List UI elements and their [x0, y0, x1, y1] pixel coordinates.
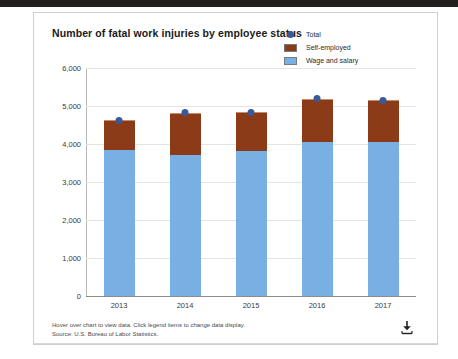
bar-segment-self-employed[interactable]: [236, 112, 267, 151]
bar-group[interactable]: [104, 68, 135, 296]
y-tick-label: 1,000: [62, 254, 81, 263]
bar-group[interactable]: [236, 68, 267, 296]
bar-segment-wage-and-salary[interactable]: [170, 154, 201, 296]
total-marker-dot[interactable]: [116, 117, 123, 124]
window-chrome-bar: [0, 0, 458, 7]
bar-segment-wage-and-salary[interactable]: [302, 141, 333, 296]
total-marker-dot[interactable]: [314, 95, 321, 102]
plot-inner[interactable]: [86, 68, 416, 296]
footer-hint: Hover over chart to view data. Click leg…: [52, 321, 382, 330]
x-tick-label: 2015: [243, 301, 260, 310]
y-tick-label: 0: [77, 292, 81, 301]
footer-source: Source: U.S. Bureau of Labor Statistics.: [52, 330, 382, 339]
download-icon[interactable]: [399, 319, 415, 337]
bar-segment-wage-and-salary[interactable]: [368, 141, 399, 296]
plot-area[interactable]: 01,0002,0003,0004,0005,0006,000 20132014…: [34, 13, 439, 346]
app-window: Number of fatal work injuries by employe…: [0, 0, 458, 359]
x-tick-label: 2013: [111, 301, 128, 310]
y-axis-labels: 01,0002,0003,0004,0005,0006,000: [34, 68, 81, 296]
chart-card: Number of fatal work injuries by employe…: [33, 12, 438, 345]
bar-group[interactable]: [302, 68, 333, 296]
x-tick-label: 2014: [177, 301, 194, 310]
bar-segment-self-employed[interactable]: [170, 113, 201, 155]
bar-group[interactable]: [170, 68, 201, 296]
bar-segment-self-employed[interactable]: [368, 100, 399, 141]
x-axis-labels: 20132014201520162017: [86, 301, 416, 315]
y-tick-label: 4,000: [62, 140, 81, 149]
footer-notes: Hover over chart to view data. Click leg…: [52, 321, 382, 339]
bar-segment-wage-and-salary[interactable]: [104, 149, 135, 296]
total-marker-dot[interactable]: [248, 109, 255, 116]
bar-segment-wage-and-salary[interactable]: [236, 150, 267, 296]
total-marker-dot[interactable]: [380, 97, 387, 104]
window-left-margin: [0, 7, 9, 359]
x-tick-label: 2016: [309, 301, 326, 310]
bar-segment-self-employed[interactable]: [302, 99, 333, 142]
x-tick-label: 2017: [375, 301, 392, 310]
y-tick-label: 2,000: [62, 216, 81, 225]
card-bottom-rule: [34, 343, 437, 344]
y-tick-label: 3,000: [62, 178, 81, 187]
y-tick-label: 6,000: [62, 64, 81, 73]
bar-group[interactable]: [368, 68, 399, 296]
x-axis-line: [86, 296, 416, 297]
bar-segment-self-employed[interactable]: [104, 120, 135, 150]
total-marker-dot[interactable]: [182, 109, 189, 116]
y-tick-label: 5,000: [62, 102, 81, 111]
